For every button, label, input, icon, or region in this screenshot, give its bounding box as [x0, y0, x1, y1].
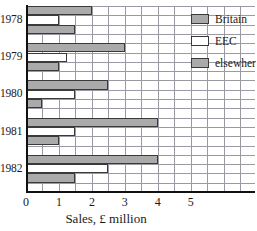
x-tick-label-3: 3	[115, 195, 135, 209]
x-tick-label-4: 4	[148, 195, 168, 209]
chart-legend: Britain EEC elsewher	[191, 11, 257, 77]
bar-elsewhere-1978	[26, 25, 75, 34]
legend-label-elsewhere: elsewher	[215, 57, 256, 70]
y-tick-label-1982: 1982	[0, 162, 25, 175]
bar-elsewhere-1981	[26, 136, 59, 145]
bar-britain-1982	[26, 155, 158, 164]
legend-label-britain: Britain	[215, 13, 247, 26]
legend-swatch-eec	[191, 36, 209, 46]
x-tick-label-5: 5	[181, 195, 201, 209]
bar-britain-1979	[26, 43, 125, 52]
x-tick-label-1: 1	[49, 195, 69, 209]
bar-britain-1980	[26, 80, 108, 89]
legend-label-eec: EEC	[215, 35, 237, 48]
legend-swatch-elsewhere	[191, 58, 209, 68]
bar-eec-1982	[26, 164, 108, 173]
bar-elsewhere-1979	[26, 62, 59, 71]
bar-britain-1978	[26, 6, 92, 15]
legend-item-britain[interactable]: Britain	[191, 11, 257, 27]
y-tick-label-1981: 1981	[0, 125, 25, 138]
x-tick-label-2: 2	[82, 195, 102, 209]
y-axis-line	[26, 5, 28, 193]
bar-elsewhere-1980	[26, 99, 42, 108]
bar-eec-1979	[26, 53, 67, 62]
x-axis-line	[26, 191, 255, 193]
legend-swatch-britain	[191, 14, 209, 24]
y-tick-label-1980: 1980	[0, 87, 25, 100]
bar-britain-1981	[26, 118, 158, 127]
legend-item-eec[interactable]: EEC	[191, 33, 257, 49]
bar-eec-1980	[26, 90, 75, 99]
y-tick-label-1978: 1978	[0, 13, 25, 26]
bar-eec-1978	[26, 15, 59, 24]
x-tick-label-0: 0	[16, 195, 36, 209]
bar-elsewhere-1982	[26, 173, 75, 182]
bar-chart: 012345 19781979198019811982 Sales, £ mil…	[0, 0, 257, 231]
legend-item-elsewhere[interactable]: elsewher	[191, 55, 257, 71]
bar-eec-1981	[26, 127, 75, 136]
y-tick-label-1979: 1979	[0, 50, 25, 63]
x-axis-label: Sales, £ million	[26, 211, 186, 226]
